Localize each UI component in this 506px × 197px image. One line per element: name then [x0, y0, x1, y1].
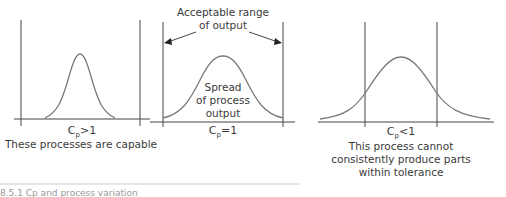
figure-caption: 8.5.1 Cp and process variation [0, 188, 138, 197]
spread-label-line2: of process [188, 94, 258, 107]
not-capable-line2: consistently produce parts [331, 153, 471, 166]
not-capable-line1: This process cannot [331, 140, 471, 153]
right-arrowhead-icon [274, 38, 282, 45]
not-capable-line3: within tolerance [331, 166, 471, 179]
panel-capable-graphic [14, 20, 150, 126]
cp-relation: >1 [80, 124, 96, 137]
right-arrow-shaft [249, 32, 278, 42]
cp-symbol: C [209, 124, 217, 137]
cp-label-exact: Cp=1 [203, 124, 243, 142]
capable-description: These processes are capable [0, 138, 162, 151]
spread-label-line3: output [188, 107, 258, 120]
cp-symbol: C [387, 125, 395, 138]
cp-symbol: C [68, 124, 76, 137]
cp-relation: <1 [399, 125, 415, 138]
left-arrowhead-icon [164, 38, 172, 45]
left-arrow-shaft [168, 32, 196, 42]
panel-not-capable-graphic [318, 22, 494, 127]
cp-relation: =1 [221, 124, 237, 137]
range-label-line2: of output [173, 19, 273, 32]
wide-distribution-curve [320, 57, 490, 119]
spread-label-line1: Spread [188, 81, 258, 94]
range-label-line1: Acceptable range [173, 6, 273, 19]
narrow-distribution-curve [45, 54, 115, 118]
